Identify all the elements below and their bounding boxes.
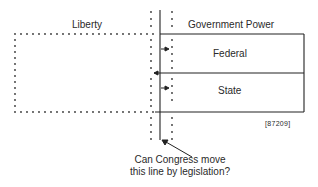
left-movable-boundary-dots: [150, 11, 152, 140]
liberty-top-dots: [14, 33, 154, 35]
federal-expansion-arrow-icon: [161, 47, 169, 51]
reference-code: [87209]: [265, 120, 290, 127]
government-power-label: Government Power: [188, 19, 274, 30]
liberty-dotted-boundary: [14, 11, 173, 140]
federal-label: Federal: [213, 48, 247, 59]
liberty-bottom-dots: [14, 111, 154, 113]
question-line-2: this line by legislation?: [105, 166, 255, 178]
state-expansion-arrow-icon: [161, 86, 169, 90]
right-movable-boundary-dots: [171, 11, 173, 140]
state-label: State: [218, 85, 241, 96]
liberty-label: Liberty: [72, 19, 102, 30]
question-caption: Can Congress move this line by legislati…: [105, 154, 255, 178]
question-line-1: Can Congress move: [105, 154, 255, 166]
liberty-left-dots: [14, 39, 16, 107]
divider-left-arrowhead-icon: [154, 71, 158, 75]
